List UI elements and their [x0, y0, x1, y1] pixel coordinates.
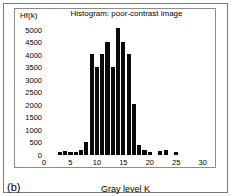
x-tick-label: 20 — [146, 158, 154, 167]
histogram-bar — [111, 67, 115, 155]
histogram-bar — [58, 152, 62, 156]
x-tick-label: 15 — [119, 158, 127, 167]
x-tick-label: 5 — [68, 158, 72, 167]
x-axis-ticks: 051015202530 — [44, 156, 208, 170]
x-tick-label: 0 — [42, 158, 46, 167]
histogram-bar — [100, 54, 104, 155]
histogram-bar — [164, 150, 168, 155]
y-tick-label: 2500 — [25, 88, 42, 97]
y-tick-label: 1000 — [25, 125, 42, 134]
histogram-bar — [63, 151, 67, 155]
histogram-bar — [84, 142, 88, 155]
y-axis-label: Hf(k) — [20, 11, 37, 20]
histogram-bar — [158, 151, 162, 155]
panel-caption: (b) — [7, 181, 20, 193]
histogram-bar — [127, 54, 131, 155]
x-tick-label: 30 — [199, 158, 207, 167]
x-tick-label: 10 — [93, 158, 101, 167]
histogram-bar — [74, 152, 78, 155]
histogram-bar — [137, 145, 141, 155]
histogram-bar — [79, 150, 83, 155]
figure-panel: Histogram: poor-contrast image Hf(k) Gra… — [0, 0, 231, 196]
histogram-bar — [90, 54, 94, 155]
histogram-bar — [95, 67, 99, 155]
histogram-bar — [148, 152, 152, 155]
y-tick-label: 5000 — [25, 25, 42, 34]
y-tick-label: 3000 — [25, 75, 42, 84]
histogram-bar — [142, 150, 146, 155]
y-axis-ticks: 0500100015002000250030003500400045005000 — [18, 22, 44, 155]
y-tick-label: 2000 — [25, 100, 42, 109]
histogram-bar — [116, 28, 120, 155]
histogram-bars — [44, 22, 208, 155]
histogram-bar — [68, 152, 72, 155]
y-tick-label: 1500 — [25, 113, 42, 122]
x-axis-label: Gray level K — [0, 184, 231, 194]
y-tick-label: 500 — [29, 138, 42, 147]
y-tick-label: 4000 — [25, 50, 42, 59]
histogram-bar — [174, 152, 178, 155]
y-tick-label: 4500 — [25, 38, 42, 47]
histogram-bar — [105, 42, 109, 155]
histogram-bar — [132, 104, 136, 155]
y-tick-label: 3500 — [25, 63, 42, 72]
histogram-bar — [121, 42, 125, 155]
x-tick-label: 25 — [172, 158, 180, 167]
